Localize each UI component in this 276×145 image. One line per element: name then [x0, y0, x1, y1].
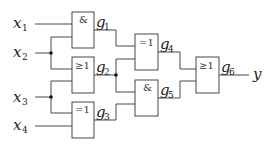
wire-g4-g6	[158, 52, 196, 69]
wire-x3-g3	[51, 97, 72, 113]
svg-text:=1: =1	[75, 104, 90, 115]
gate-g1-label: g 1	[96, 13, 110, 32]
gate-g4: =1	[135, 34, 158, 70]
svg-text:3: 3	[104, 112, 110, 122]
svg-text:x: x	[13, 116, 22, 134]
svg-text:2: 2	[22, 52, 28, 62]
logic-circuit-diagram: x 1 x 2 x 3 x 4 & ≥1 =1 g 1 g 2	[0, 0, 276, 145]
input-x2-label: x 2	[13, 43, 28, 62]
wire-x2-g1	[51, 37, 72, 53]
svg-text:&: &	[79, 14, 88, 25]
gate-g5: &	[135, 80, 158, 116]
input-x1-label: x 1	[13, 14, 28, 33]
junction-g2	[114, 73, 118, 77]
svg-text:x: x	[13, 88, 22, 106]
gate-g2-label: g 2	[96, 58, 110, 77]
gate-g6-label: g 6	[221, 58, 235, 77]
svg-text:1: 1	[22, 23, 28, 33]
svg-text:1: 1	[104, 22, 110, 32]
svg-text:=1: =1	[139, 37, 154, 48]
svg-text:3: 3	[22, 97, 28, 107]
junction-x2	[49, 51, 53, 55]
wire-x3-g2	[51, 81, 72, 97]
wire-g2-g4	[116, 59, 135, 75]
gate-g2: ≥1	[72, 57, 94, 93]
svg-text:≥1: ≥1	[75, 60, 90, 71]
junction-x3	[49, 95, 53, 99]
input-x3-label: x 3	[13, 88, 28, 107]
output-y-label: y	[252, 65, 262, 83]
svg-text:&: &	[143, 82, 152, 93]
svg-text:4: 4	[22, 125, 28, 135]
svg-text:4: 4	[168, 44, 174, 54]
gate-g5-label: g 5	[160, 81, 174, 100]
input-x4-label: x 4	[13, 116, 28, 135]
svg-text:5: 5	[168, 90, 174, 100]
svg-text:x: x	[13, 14, 22, 32]
gate-g1: &	[72, 12, 94, 48]
wire-x2-g2	[51, 53, 72, 69]
wire-g2-g5	[116, 75, 135, 92]
gate-g6: ≥1	[196, 57, 219, 93]
svg-text:x: x	[13, 43, 22, 61]
svg-text:6: 6	[229, 67, 235, 77]
gate-g4-label: g 4	[160, 35, 174, 54]
gate-g3-label: g 3	[96, 103, 110, 122]
svg-text:2: 2	[104, 67, 110, 77]
gate-g3: =1	[72, 102, 94, 138]
wire-g1-g4	[94, 30, 135, 46]
svg-text:≥1: ≥1	[199, 60, 214, 71]
